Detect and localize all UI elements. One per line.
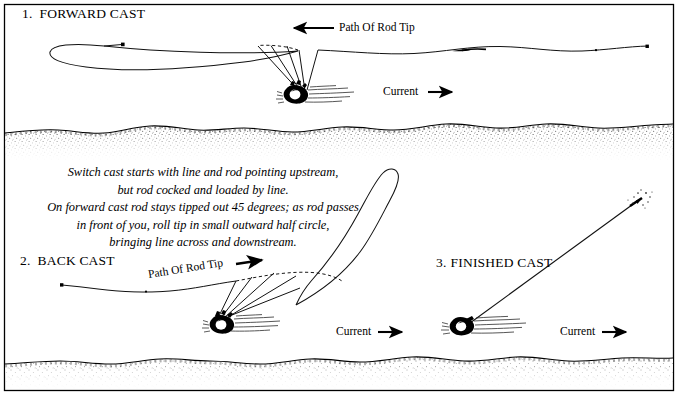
riverbank-upper bbox=[5, 124, 673, 160]
riverbank-lower bbox=[5, 357, 673, 390]
rod-tip-path-1 bbox=[258, 45, 298, 50]
panel-2-heading: 2.BACK CAST bbox=[20, 254, 115, 268]
panel-2-label: BACK CAST bbox=[38, 253, 115, 268]
rod-tip-label-1: Path Of Rod Tip bbox=[339, 21, 415, 33]
fly-drifting-1 bbox=[646, 45, 649, 48]
landed-fly-3 bbox=[627, 189, 652, 208]
switch-cast-diagram: 1.FORWARD CAST Path Of Rod Tip Current S… bbox=[0, 0, 678, 395]
fly-line-loop-1 bbox=[50, 44, 298, 69]
panel-1-heading: 1.FORWARD CAST bbox=[22, 7, 145, 21]
rod-tip-arrow-2 bbox=[236, 260, 262, 264]
instruction-line-3: On forward cast rod stays tipped out 45 … bbox=[33, 199, 373, 217]
angler-figure-1 bbox=[276, 80, 354, 104]
current-label-1: Current bbox=[383, 85, 418, 97]
panel-2-number: 2. bbox=[20, 253, 31, 268]
angler-figure-3 bbox=[441, 316, 526, 335]
panel-3-number: 3. bbox=[436, 255, 447, 270]
instruction-line-2: but rod cocked and loaded by line. bbox=[33, 182, 373, 200]
instruction-line-4: in front of you, roll tip in small outwa… bbox=[33, 217, 373, 235]
current-label-2: Current bbox=[336, 325, 371, 337]
panel-3-label: FINISHED CAST bbox=[451, 255, 553, 270]
instruction-text: Switch cast starts with line and rod poi… bbox=[33, 164, 373, 252]
forward-cast-drawing bbox=[50, 43, 649, 104]
current-label-3: Current bbox=[560, 325, 595, 337]
panel-3-heading: 3.FINISHED CAST bbox=[436, 256, 553, 270]
fly-1 bbox=[121, 43, 125, 47]
instruction-line-5: bringing line across and downstream. bbox=[33, 234, 373, 252]
panel-1-label: FORWARD CAST bbox=[40, 6, 146, 21]
rod-positions-2 bbox=[218, 273, 300, 318]
fly-2 bbox=[60, 283, 63, 286]
instruction-line-1: Switch cast starts with line and rod poi… bbox=[33, 164, 373, 182]
fly-line-upstream-2 bbox=[62, 281, 236, 292]
angler-figure-2 bbox=[202, 310, 280, 334]
panel-1-number: 1. bbox=[22, 6, 33, 21]
